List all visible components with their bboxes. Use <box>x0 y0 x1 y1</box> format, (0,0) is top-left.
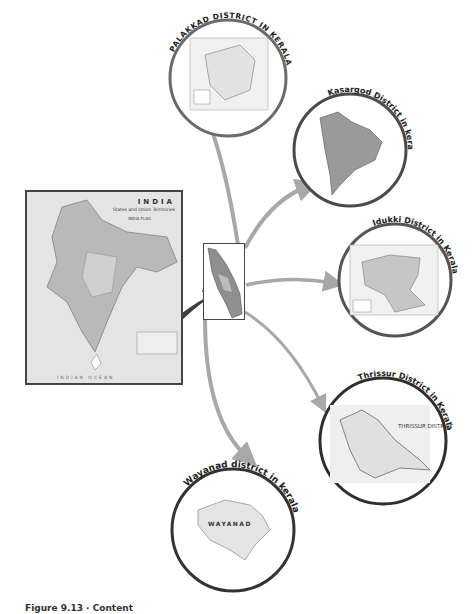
kerala-center-map <box>203 243 245 320</box>
india-map-ocean-label: INDIAN OCEAN <box>57 375 114 380</box>
wayanad-inner-label: WAYANAD <box>208 520 252 527</box>
india-map: INDIA States and Union Territories INDIA… <box>25 190 183 385</box>
figure-caption: Figure 9.13 · Content <box>25 603 133 613</box>
district-circle-palakkad <box>170 20 286 136</box>
district-circle-kasargod <box>294 94 406 206</box>
district-circle-thrissur <box>320 378 446 504</box>
kerala-map-shape <box>204 244 245 320</box>
india-map-title: INDIA <box>138 198 175 206</box>
district-circle-idukki <box>339 224 451 336</box>
india-map-shape <box>27 192 183 385</box>
district-circle-wayanad <box>172 469 294 591</box>
thrissur-inner-label: THRISSUR DISTRICT <box>397 423 454 429</box>
india-map-flag-legend: INDIA FLAG <box>128 216 151 221</box>
india-map-subtitle: States and Union Territories <box>113 207 175 212</box>
